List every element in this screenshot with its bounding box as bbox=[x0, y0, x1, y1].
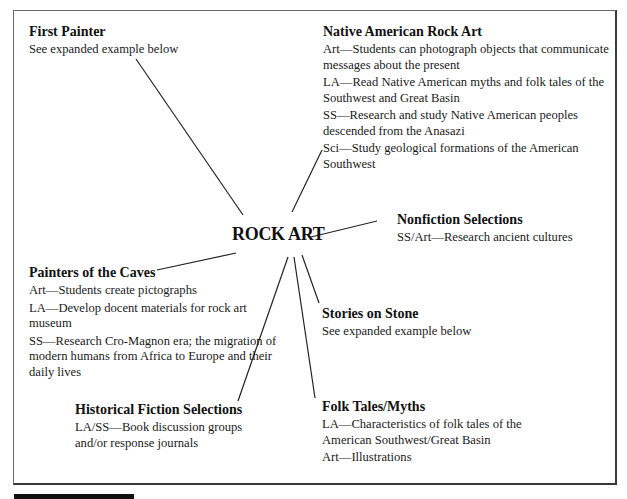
node-first-painter: First Painter See expanded example below bbox=[29, 23, 289, 58]
node-item: Art—Illustrations bbox=[322, 450, 562, 466]
node-painters-caves: Painters of the Caves Art—Students creat… bbox=[29, 264, 279, 380]
node-title: Folk Tales/Myths bbox=[322, 398, 562, 415]
connector-native-american bbox=[292, 150, 322, 212]
node-historical-fiction: Historical Fiction Selections LA/SS—Book… bbox=[75, 401, 275, 451]
node-item: SS—Research Cro-Magnon era; the migratio… bbox=[29, 334, 279, 381]
node-title: Native American Rock Art bbox=[323, 23, 613, 40]
node-item: LA—Develop docent materials for rock art… bbox=[29, 301, 279, 332]
connector-folk-tales bbox=[294, 257, 315, 398]
node-native-american: Native American Rock Art Art—Students ca… bbox=[323, 23, 613, 172]
node-item: Art—Students create pictographs bbox=[29, 283, 279, 299]
connector-first-painter bbox=[136, 59, 243, 215]
node-stories-stone: Stories on Stone See expanded example be… bbox=[322, 305, 522, 340]
node-title: Painters of the Caves bbox=[29, 264, 279, 281]
node-item: See expanded example below bbox=[322, 324, 522, 340]
node-title: Stories on Stone bbox=[322, 305, 522, 322]
node-title: Historical Fiction Selections bbox=[75, 401, 275, 418]
node-item: Sci—Study geological formations of the A… bbox=[323, 141, 613, 172]
node-nonfiction: Nonfiction Selections SS/Art—Research an… bbox=[397, 211, 607, 246]
node-item: LA/SS—Book discussion groups and/or resp… bbox=[75, 420, 275, 451]
node-item: Art—Students can photograph objects that… bbox=[323, 42, 613, 73]
connector-stories-stone bbox=[302, 255, 319, 303]
node-item: SS—Research and study Native American pe… bbox=[323, 108, 613, 139]
node-item: SS/Art—Research ancient cultures bbox=[397, 230, 607, 246]
node-item: LA—Characteristics of folk tales of the … bbox=[322, 417, 562, 448]
node-title: First Painter bbox=[29, 23, 289, 40]
node-item: LA—Read Native American myths and folk t… bbox=[323, 75, 613, 106]
node-item: See expanded example below bbox=[29, 42, 289, 58]
node-folk-tales: Folk Tales/Myths LA—Characteristics of f… bbox=[322, 398, 562, 466]
node-title: Nonfiction Selections bbox=[397, 211, 607, 228]
central-topic: ROCK ART bbox=[232, 224, 324, 245]
